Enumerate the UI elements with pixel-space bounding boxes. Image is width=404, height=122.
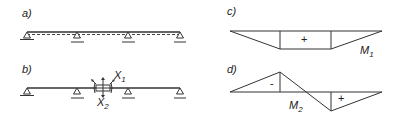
panel-a: a) — [20, 7, 186, 42]
support-b-1 — [20, 88, 34, 96]
sign-plus-c: + — [301, 33, 307, 45]
structural-analysis-figure: a) b) — [0, 0, 404, 122]
panel-b: b) X1 X2 — [20, 63, 186, 111]
m1-label: M1 — [360, 44, 374, 59]
panel-b-label: b) — [22, 63, 32, 75]
support-b-2 — [71, 88, 84, 98]
support-a-1 — [20, 32, 34, 40]
support-a-4 — [174, 32, 186, 42]
panel-d: d) - + M2 — [227, 63, 382, 114]
panel-c: c) + M1 — [227, 5, 382, 59]
support-b-3 — [122, 88, 135, 98]
support-a-3 — [122, 32, 135, 42]
x1-label: X1 — [113, 69, 126, 84]
panel-d-label: d) — [227, 63, 237, 75]
sign-minus-d: - — [270, 77, 274, 89]
support-a-2 — [71, 32, 84, 42]
x2-label: X2 — [96, 96, 109, 111]
sign-plus-d: + — [338, 92, 344, 104]
panel-c-label: c) — [227, 5, 237, 17]
panel-a-label: a) — [22, 7, 32, 19]
m2-label: M2 — [289, 99, 303, 114]
support-b-4 — [174, 88, 186, 98]
